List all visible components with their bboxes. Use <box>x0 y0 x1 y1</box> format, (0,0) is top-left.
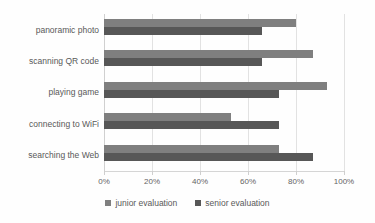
x-tick-mark <box>152 171 153 175</box>
legend-label: junior evaluation <box>115 198 177 208</box>
x-tick-label: 60% <box>240 177 256 186</box>
bar <box>104 27 262 35</box>
legend-label: senior evaluation <box>205 198 269 208</box>
x-axis-ticks: 0%20%40%60%80%100% <box>104 171 344 187</box>
legend-swatch-icon <box>195 200 201 206</box>
x-tick-label: 100% <box>334 177 354 186</box>
bar-chart: panoramic photoscanning QR codeplaying g… <box>0 0 375 223</box>
bar-groups <box>104 14 344 171</box>
x-tick-label: 40% <box>192 177 208 186</box>
legend-swatch-icon <box>105 200 111 206</box>
x-tick-label: 80% <box>288 177 304 186</box>
bar-group <box>104 77 344 108</box>
x-tick-mark <box>248 171 249 175</box>
bar-group <box>104 108 344 139</box>
bar <box>104 58 262 66</box>
category-label: searching the Web <box>28 140 99 171</box>
x-tick-mark <box>200 171 201 175</box>
x-tick-mark <box>296 171 297 175</box>
legend-item: junior evaluation <box>105 198 177 208</box>
bar <box>104 50 313 58</box>
category-label: connecting to WiFi <box>29 108 99 139</box>
bar-group <box>104 45 344 76</box>
bar <box>104 113 231 121</box>
category-label: panoramic photo <box>36 14 99 45</box>
category-axis-labels: panoramic photoscanning QR codeplaying g… <box>0 14 99 171</box>
x-tick-label: 0% <box>98 177 110 186</box>
bar-group <box>104 14 344 45</box>
gridline-100 <box>344 14 345 171</box>
chart-legend: junior evaluationsenior evaluation <box>0 198 375 208</box>
bar-group <box>104 140 344 171</box>
x-tick-label: 20% <box>144 177 160 186</box>
category-label: scanning QR code <box>29 45 99 76</box>
x-tick-mark <box>344 171 345 175</box>
bar <box>104 82 327 90</box>
bar <box>104 153 313 161</box>
bar <box>104 19 296 27</box>
bar <box>104 90 279 98</box>
category-label: playing game <box>48 77 99 108</box>
x-tick-mark <box>104 171 105 175</box>
bar <box>104 121 279 129</box>
plot-area <box>104 14 344 171</box>
bar <box>104 145 279 153</box>
legend-item: senior evaluation <box>195 198 269 208</box>
